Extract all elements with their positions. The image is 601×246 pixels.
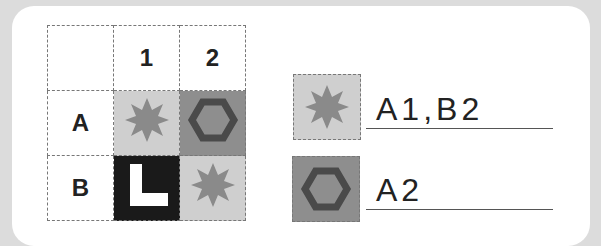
cell-b2 <box>180 156 246 221</box>
row-header-b: B <box>48 156 114 221</box>
star-icon <box>302 82 352 132</box>
col-header-1: 1 <box>114 26 180 91</box>
cell-b1 <box>114 156 180 221</box>
legend-swatch-star <box>293 74 361 140</box>
cell-a2 <box>180 91 246 156</box>
answer-field-hexagon[interactable]: A2 <box>366 170 553 210</box>
hexagon-icon <box>300 166 352 212</box>
star-icon <box>188 160 238 210</box>
row-header-a: A <box>48 91 114 156</box>
star-icon <box>122 95 172 145</box>
col-header-2: 2 <box>180 26 246 91</box>
answer-field-star[interactable]: A1,B2 <box>366 89 553 129</box>
l-shape-icon <box>122 160 172 210</box>
coordinate-grid: 1 2 A B <box>47 25 246 221</box>
hexagon-icon <box>187 97 239 143</box>
corner-cell <box>48 26 114 91</box>
cell-a1 <box>114 91 180 156</box>
legend-swatch-hexagon <box>292 156 360 222</box>
